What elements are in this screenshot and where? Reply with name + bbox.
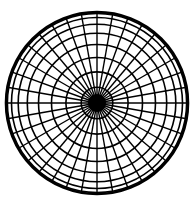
- pole-hub: [88, 94, 106, 112]
- polar-grid-diagram: [0, 0, 192, 203]
